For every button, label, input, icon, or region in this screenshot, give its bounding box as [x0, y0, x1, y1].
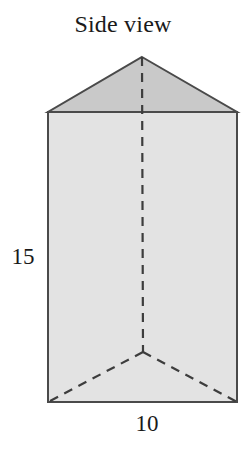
height-dimension-label: 15: [6, 245, 40, 268]
base-dimension-label: 10: [112, 412, 182, 435]
geometry-figure: Side view 15 10: [0, 0, 246, 454]
triangular-prism-drawing: [0, 0, 246, 454]
figure-title: Side view: [0, 12, 246, 36]
